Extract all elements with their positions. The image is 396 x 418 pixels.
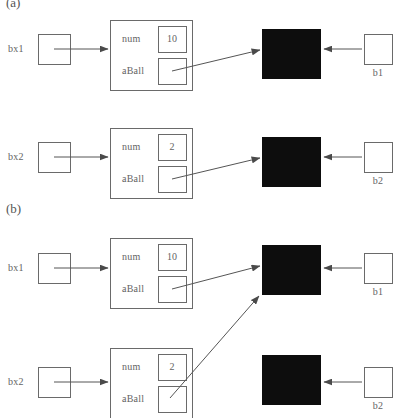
- field-value-num-row-b1: 10: [167, 252, 177, 262]
- field-value-box-aBall-row-a2[interactable]: [159, 167, 187, 193]
- solid-object-square-b2[interactable]: [263, 138, 321, 187]
- variable-label-row-a1: bx1: [8, 44, 24, 54]
- field-label-num-row-a2: num: [122, 142, 140, 152]
- object-ref-box-b1[interactable]: [365, 254, 393, 284]
- solid-object-square-b1[interactable]: [263, 246, 321, 295]
- solid-object-square-b2[interactable]: [263, 356, 321, 405]
- diagram-shapes: [39, 21, 393, 418]
- field-value-box-aBall-row-b1[interactable]: [159, 277, 187, 303]
- field-value-num-row-a1: 10: [167, 34, 177, 44]
- object-ref-box-b1[interactable]: [365, 35, 393, 65]
- variable-label-row-b1: bx1: [8, 263, 24, 273]
- field-value-num-row-b2: 2: [170, 362, 175, 372]
- field-label-num-row-b1: num: [122, 252, 140, 262]
- object-container-row-b2[interactable]: [111, 349, 193, 418]
- object-reference-diagram: (a)bx1num10aBallb1bx2num2aBallb2(b)bx1nu…: [0, 0, 396, 418]
- object-label-b1-row-a1: b1: [373, 68, 384, 78]
- object-label-b2-row-a2: b2: [373, 176, 384, 186]
- object-container-row-b1[interactable]: [111, 239, 193, 309]
- arrow-b1-aball: [172, 266, 260, 289]
- object-ref-box-b2[interactable]: [365, 143, 393, 173]
- diagram-canvas: [0, 0, 396, 418]
- field-value-num-row-a2: 2: [170, 142, 175, 152]
- variable-label-row-b2: bx2: [8, 377, 24, 387]
- field-label-aBall-row-b1: aBall: [122, 284, 144, 294]
- field-label-aBall-row-a2: aBall: [122, 174, 144, 184]
- arrow-a2-aball: [172, 158, 260, 179]
- field-value-box-aBall-row-a1[interactable]: [159, 59, 187, 85]
- field-label-num-row-b2: num: [122, 362, 140, 372]
- panel-label-panel-a: (a): [6, 0, 20, 9]
- field-label-aBall-row-a1: aBall: [122, 66, 144, 76]
- object-label-b2-row-b2: b2: [373, 401, 384, 411]
- object-container-row-a2[interactable]: [111, 129, 193, 199]
- arrow-a1-aball: [172, 50, 260, 71]
- object-container-row-a1[interactable]: [111, 21, 193, 91]
- solid-object-square-b1[interactable]: [263, 30, 321, 79]
- field-value-box-aBall-row-b2[interactable]: [159, 387, 187, 413]
- arrow-b2-aball-crossing: [170, 296, 259, 398]
- field-label-num-row-a1: num: [122, 34, 140, 44]
- panel-label-panel-b: (b): [6, 202, 21, 215]
- object-ref-box-b2[interactable]: [365, 368, 393, 398]
- diagram-arrows: [54, 49, 362, 398]
- field-label-aBall-row-b2: aBall: [122, 394, 144, 404]
- object-label-b1-row-b1: b1: [373, 287, 384, 297]
- variable-label-row-a2: bx2: [8, 152, 24, 162]
